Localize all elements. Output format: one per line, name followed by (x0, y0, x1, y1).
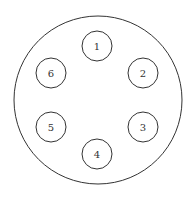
node-6: 6 (36, 58, 66, 88)
node-label: 2 (140, 68, 146, 79)
node-2: 2 (128, 58, 158, 88)
node-4: 4 (82, 139, 112, 169)
node-3: 3 (128, 112, 158, 142)
node-label: 6 (48, 68, 54, 79)
node-label: 5 (48, 122, 54, 133)
diagram-canvas: 1 2 3 4 5 6 (0, 0, 186, 199)
node-5: 5 (36, 112, 66, 142)
node-label: 3 (140, 122, 146, 133)
node-label: 4 (94, 149, 100, 160)
node-1: 1 (82, 31, 112, 61)
node-label: 1 (94, 41, 100, 52)
